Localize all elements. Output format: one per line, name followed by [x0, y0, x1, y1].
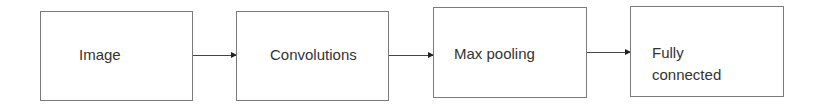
- node-convolutions-label: Convolutions: [270, 44, 357, 65]
- arrow-image-to-convolutions: [193, 55, 236, 56]
- node-fully-connected-label-line2: connected: [652, 64, 721, 85]
- arrow-convolutions-to-maxpooling: [389, 55, 433, 56]
- node-image-label: Image: [79, 44, 121, 65]
- node-fully-connected-label-line1: Fully: [652, 42, 684, 63]
- node-max-pooling-label: Max pooling: [454, 43, 535, 64]
- arrow-maxpooling-to-fullyconnected: [587, 52, 630, 53]
